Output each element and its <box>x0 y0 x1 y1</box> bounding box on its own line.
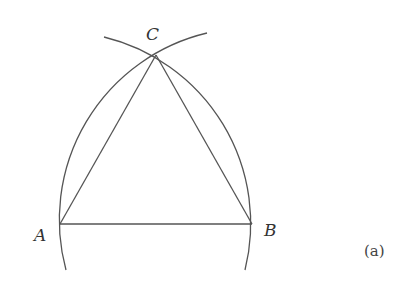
segment-bc <box>156 55 252 224</box>
triangle-construction <box>0 0 409 294</box>
label-point-a: A <box>34 225 46 245</box>
label-point-c: C <box>146 24 159 44</box>
arc-centered-a <box>104 37 251 270</box>
segment-ac <box>60 55 156 224</box>
diagram-canvas: C A B (a) <box>0 0 409 294</box>
label-point-b: B <box>264 220 277 240</box>
figure-caption: (a) <box>364 242 385 260</box>
arc-centered-b <box>59 33 207 270</box>
